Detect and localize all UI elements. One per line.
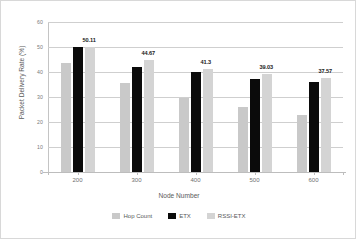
bar-rssi-etx-200[interactable] bbox=[85, 47, 95, 172]
y-tick-label: 60 bbox=[37, 19, 43, 25]
x-axis-title: Node Number bbox=[1, 192, 356, 199]
x-tick bbox=[314, 172, 315, 175]
bar-etx-300[interactable] bbox=[132, 67, 142, 172]
x-tick bbox=[196, 172, 197, 175]
plot-area: 0102030405060 bbox=[48, 22, 343, 172]
data-label-500: 39.03 bbox=[260, 64, 274, 70]
x-tick-edge-1 bbox=[343, 172, 344, 175]
bar-group-500 bbox=[238, 22, 272, 172]
bar-etx-500[interactable] bbox=[250, 79, 260, 172]
x-tick-edge-0 bbox=[48, 172, 49, 175]
bar-rssi-etx-300[interactable] bbox=[144, 60, 154, 172]
bar-rssi-etx-500[interactable] bbox=[262, 74, 272, 172]
legend-swatch-icon bbox=[168, 213, 176, 219]
bar-group-200 bbox=[61, 22, 95, 172]
x-tick-label-400: 400 bbox=[190, 177, 200, 183]
y-axis-title: Packet Delivery Rate (%) bbox=[18, 18, 25, 148]
x-axis-line bbox=[43, 172, 346, 173]
x-tick-label-200: 200 bbox=[72, 177, 82, 183]
bar-hop-count-500[interactable] bbox=[238, 107, 248, 172]
legend-label: Hop Count bbox=[123, 213, 152, 219]
chart-legend: Hop CountETXRSSI-ETX bbox=[1, 213, 356, 219]
bar-etx-400[interactable] bbox=[191, 72, 201, 172]
legend-item-hop-count[interactable]: Hop Count bbox=[112, 213, 152, 219]
bar-etx-600[interactable] bbox=[309, 82, 319, 172]
bar-group-400 bbox=[179, 22, 213, 172]
bar-etx-200[interactable] bbox=[73, 47, 83, 172]
legend-item-etx[interactable]: ETX bbox=[168, 213, 191, 219]
x-tick-label-500: 500 bbox=[249, 177, 259, 183]
chart-figure: 0102030405060 Node Number Packet Deliver… bbox=[0, 0, 356, 239]
legend-swatch-icon bbox=[112, 213, 120, 219]
legend-label: ETX bbox=[179, 213, 191, 219]
bar-hop-count-200[interactable] bbox=[61, 63, 71, 172]
bar-rssi-etx-600[interactable] bbox=[321, 78, 331, 172]
bar-hop-count-600[interactable] bbox=[297, 115, 307, 173]
legend-swatch-icon bbox=[207, 213, 215, 219]
y-tick-label: 10 bbox=[37, 144, 43, 150]
bar-group-600 bbox=[297, 22, 331, 172]
data-label-400: 41.3 bbox=[201, 59, 212, 65]
y-tick-label: 20 bbox=[37, 119, 43, 125]
legend-item-rssi-etx[interactable]: RSSI-ETX bbox=[207, 213, 246, 219]
bar-rssi-etx-400[interactable] bbox=[203, 69, 213, 172]
bar-group-300 bbox=[120, 22, 154, 172]
y-tick-label: 30 bbox=[37, 94, 43, 100]
y-tick-label: 50 bbox=[37, 44, 43, 50]
data-label-300: 44.67 bbox=[142, 50, 156, 56]
x-tick-label-300: 300 bbox=[131, 177, 141, 183]
data-label-600: 37.57 bbox=[319, 68, 333, 74]
x-tick-label-600: 600 bbox=[308, 177, 318, 183]
y-tick-label: 40 bbox=[37, 69, 43, 75]
bar-hop-count-400[interactable] bbox=[179, 98, 189, 173]
x-tick bbox=[78, 172, 79, 175]
bar-hop-count-300[interactable] bbox=[120, 83, 130, 173]
data-label-200: 50.11 bbox=[83, 37, 96, 43]
legend-label: RSSI-ETX bbox=[218, 213, 246, 219]
x-tick bbox=[137, 172, 138, 175]
x-tick bbox=[255, 172, 256, 175]
